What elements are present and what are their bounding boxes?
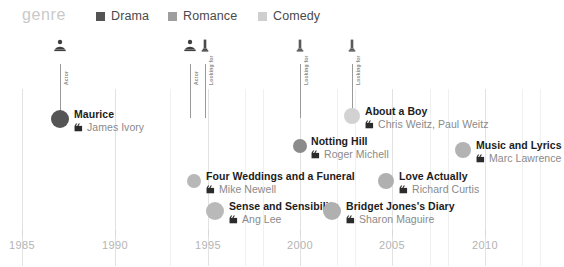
legend-swatch-icon (168, 12, 177, 21)
film-title: Four Weddings and a Funeral (206, 170, 355, 182)
legend-title: genre (22, 6, 66, 24)
axis-tick-label: 2010 (472, 239, 498, 251)
actor-icon (54, 39, 67, 52)
legend-item-drama[interactable]: Drama (96, 9, 149, 23)
film-genre-dot[interactable] (455, 142, 471, 158)
film-label: Sense and SensibilityAng Lee (229, 200, 338, 225)
actor-name-label: Actor (193, 71, 199, 85)
legend-item-romance[interactable]: Romance (168, 9, 237, 23)
clapperboard-icon (365, 120, 374, 129)
film-director: Richard Curtis (412, 183, 479, 195)
film-label: About a BoyChris Weitz, Paul Weitz (365, 105, 488, 130)
film-title: Bridget Jones's Diary (346, 200, 455, 212)
film-director: Mike Newell (219, 183, 276, 195)
film-title: Music and Lyrics (476, 139, 562, 151)
actor-name-label: Looking for (303, 55, 309, 85)
award-icon (199, 39, 212, 52)
plot-area: ActorActorLooking forLooking forLooking … (0, 34, 564, 267)
actor-connector-line (300, 64, 301, 118)
clapperboard-icon (346, 215, 355, 224)
axis-tick-label: 1985 (9, 239, 35, 251)
axis-tick-label: 2005 (379, 239, 405, 251)
time-axis: 198519901995200020052010 (0, 230, 564, 267)
film-label: MauriceJames Ivory (74, 108, 144, 133)
film-genre-dot[interactable] (187, 174, 201, 188)
clapperboard-icon (399, 185, 408, 194)
legend-item-label: Comedy (273, 9, 320, 23)
film-director-row: Sharon Maguire (346, 213, 455, 225)
legend-swatch-icon (258, 12, 267, 21)
axis-tick-label: 2000 (287, 239, 313, 251)
film-label: Bridget Jones's DiarySharon Maguire (346, 200, 455, 225)
film-label: Four Weddings and a FuneralMike Newell (206, 170, 355, 195)
axis-tick-mark (115, 230, 116, 236)
timeline-visualization: genre DramaRomanceComedy ActorActorLooki… (0, 0, 564, 267)
film-director-row: Chris Weitz, Paul Weitz (365, 118, 488, 130)
award-icon (294, 39, 307, 52)
film-title: About a Boy (365, 105, 488, 117)
film-genre-dot[interactable] (344, 108, 360, 124)
clapperboard-icon (229, 215, 238, 224)
film-director: Sharon Maguire (359, 213, 434, 225)
legend-swatch-icon (96, 12, 105, 21)
film-director-row: Roger Michell (311, 148, 389, 160)
axis-tick-mark (392, 230, 393, 236)
film-director: Ang Lee (242, 213, 281, 225)
axis-tick-mark (22, 230, 23, 236)
film-genre-dot[interactable] (51, 110, 69, 128)
film-title: Maurice (74, 108, 144, 120)
film-label: Notting HillRoger Michell (311, 135, 389, 160)
actor-connector-line (205, 64, 206, 118)
axis-tick-mark (300, 230, 301, 236)
legend-item-comedy[interactable]: Comedy (258, 9, 320, 23)
film-genre-dot[interactable] (293, 139, 307, 153)
film-label: Music and LyricsMarc Lawrence (476, 139, 562, 164)
film-director-row: Richard Curtis (399, 183, 479, 195)
award-icon (346, 39, 359, 52)
actor-connector-line (190, 64, 191, 118)
legend-item-label: Drama (111, 9, 149, 23)
actor-icon (184, 39, 197, 52)
film-director: Marc Lawrence (489, 152, 561, 164)
film-label: Love ActuallyRichard Curtis (399, 170, 479, 195)
axis-tick-mark (208, 230, 209, 236)
legend-item-label: Romance (183, 9, 237, 23)
film-director: James Ivory (87, 121, 144, 133)
film-title: Love Actually (399, 170, 479, 182)
axis-tick-label: 1990 (102, 239, 128, 251)
film-director-row: Ang Lee (229, 213, 338, 225)
film-genre-dot[interactable] (323, 202, 341, 220)
film-genre-dot[interactable] (206, 202, 224, 220)
clapperboard-icon (476, 154, 485, 163)
film-director-row: James Ivory (74, 121, 144, 133)
actor-name-label: Actor (63, 71, 69, 85)
actor-name-label: Looking for (355, 55, 361, 85)
axis-tick-label: 1995 (195, 239, 221, 251)
film-director: Roger Michell (324, 148, 389, 160)
film-director-row: Mike Newell (206, 183, 355, 195)
film-title: Notting Hill (311, 135, 389, 147)
film-genre-dot[interactable] (378, 173, 394, 189)
film-title: Sense and Sensibility (229, 200, 338, 212)
clapperboard-icon (206, 185, 215, 194)
axis-tick-mark (485, 230, 486, 236)
clapperboard-icon (311, 150, 320, 159)
legend: genre DramaRomanceComedy (0, 0, 564, 34)
film-director: Chris Weitz, Paul Weitz (378, 118, 488, 130)
film-director-row: Marc Lawrence (476, 152, 562, 164)
clapperboard-icon (74, 123, 83, 132)
actor-name-label: Looking for (208, 55, 214, 85)
